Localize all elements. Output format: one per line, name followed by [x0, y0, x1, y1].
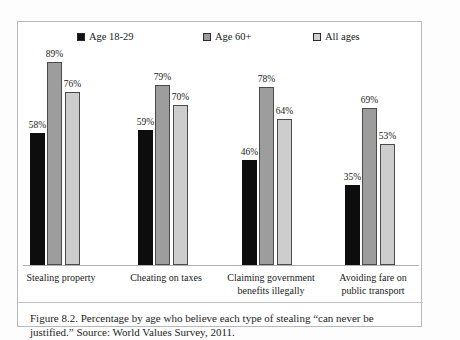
category-label-line1: Claiming government — [213, 272, 329, 285]
bar — [345, 185, 360, 265]
bar-value-label: 64% — [268, 106, 301, 117]
figure-frame: Age 18-29 Age 60+ All ages 58% 89% — [17, 21, 422, 327]
bar-slot: 35% — [345, 37, 360, 265]
x-axis-category-labels: Stealing property Cheating on taxes Clai… — [18, 272, 423, 312]
category-label-line2: benefits illegally — [213, 285, 329, 298]
bar-slot: 78% — [259, 37, 274, 265]
bar-slot: 89% — [47, 37, 62, 265]
bar — [65, 92, 80, 265]
bar-group-claiming-government-benefits-illegally: 46% 78% 64% — [242, 37, 304, 265]
category-label-line2: public transport — [315, 285, 431, 298]
bar-slot: 76% — [65, 37, 80, 265]
bar — [47, 62, 62, 265]
bar-value-label: 53% — [371, 131, 404, 142]
category-label-cheating-on-taxes: Cheating on taxes — [108, 272, 224, 285]
bar — [138, 130, 153, 265]
bar — [155, 85, 170, 265]
caption-divider — [18, 302, 423, 303]
bar-group-cheating-on-taxes: 59% 79% 70% — [138, 37, 200, 265]
category-label-stealing-property: Stealing property — [3, 272, 119, 285]
bar — [173, 105, 188, 265]
bar-slot: 58% — [30, 37, 45, 265]
category-label-line1: Avoiding fare on — [315, 272, 431, 285]
category-label-avoiding-fare-on-public-transport: Avoiding fare on public transport — [315, 272, 431, 297]
bar-group-avoiding-fare-on-public-transport: 35% 69% 53% — [345, 37, 407, 265]
bar — [380, 144, 395, 265]
bar-slot: 46% — [242, 37, 257, 265]
category-label-line1: Cheating on taxes — [108, 272, 224, 285]
figure-root: Age 18-29 Age 60+ All ages 58% 89% — [0, 0, 460, 340]
bar-value-label: 76% — [56, 79, 89, 90]
plot-area: 58% 89% 76% 59% 79% — [18, 22, 423, 280]
bar-slot: 53% — [380, 37, 395, 265]
bar — [242, 160, 257, 265]
x-axis-line — [23, 265, 419, 266]
figure-caption: Figure 8.2. Percentage by age who believ… — [30, 311, 412, 339]
bar-slot: 79% — [155, 37, 170, 265]
bar-value-label: 70% — [164, 92, 197, 103]
bar — [30, 133, 45, 265]
bar-slot: 70% — [173, 37, 188, 265]
category-label-claiming-government-benefits-illegally: Claiming government benefits illegally — [213, 272, 329, 297]
bar — [277, 119, 292, 265]
bar-slot: 64% — [277, 37, 292, 265]
category-label-line1: Stealing property — [3, 272, 119, 285]
bar-group-stealing-property: 58% 89% 76% — [30, 37, 92, 265]
bar-slot: 69% — [362, 37, 377, 265]
